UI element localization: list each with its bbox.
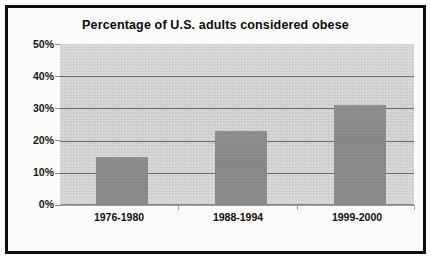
y-axis-tick-label-30: 30% xyxy=(10,103,54,114)
x-axis-tick-3 xyxy=(414,205,415,210)
x-axis-tick-1 xyxy=(178,205,179,210)
y-axis-tick-label-20: 20% xyxy=(10,135,54,146)
y-axis-tick-label-50: 50% xyxy=(10,39,54,50)
gridline-40 xyxy=(60,76,414,77)
x-axis-line xyxy=(60,205,415,206)
plot-area xyxy=(60,44,414,205)
bar-chart: Percentage of U.S. adults considered obe… xyxy=(8,8,423,251)
x-axis-label-1988-1994: 1988-1994 xyxy=(179,211,297,223)
bar-1976-1980 xyxy=(96,157,148,205)
y-axis-tick-label-40: 40% xyxy=(10,71,54,82)
y-axis-tick-label-0: 0% xyxy=(10,199,54,210)
x-axis-label-1976-1980: 1976-1980 xyxy=(60,211,178,223)
chart-title: Percentage of U.S. adults considered obe… xyxy=(8,18,423,32)
x-axis-label-1999-2000: 1999-2000 xyxy=(298,211,416,223)
y-axis-labels: 50% 40% 30% 20% 10% 0% xyxy=(8,8,54,251)
chart-page: Percentage of U.S. adults considered obe… xyxy=(0,0,431,259)
chart-frame: Percentage of U.S. adults considered obe… xyxy=(5,5,426,254)
x-axis-tick-2 xyxy=(297,205,298,210)
x-axis-labels: 1976-1980 1988-1994 1999-2000 xyxy=(60,211,415,231)
y-axis-tick-label-10: 10% xyxy=(10,167,54,178)
bar-1988-1994 xyxy=(215,131,267,205)
bar-1999-2000 xyxy=(334,105,386,205)
